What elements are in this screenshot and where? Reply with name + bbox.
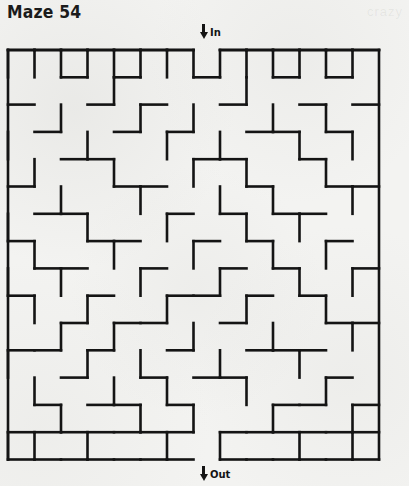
maze-wall-v xyxy=(86,213,89,243)
maze-wall-v xyxy=(245,49,248,79)
maze-border-top xyxy=(139,49,168,52)
maze-border-top xyxy=(166,49,195,52)
maze-wall-h xyxy=(113,322,142,325)
maze-wall-v xyxy=(325,49,328,79)
maze-wall-h xyxy=(298,103,327,106)
maze-wall-v xyxy=(113,240,116,270)
maze-wall-v xyxy=(86,294,89,324)
maze-border-bottom xyxy=(219,458,248,461)
maze-wall-v xyxy=(245,158,248,188)
maze-wall-v xyxy=(33,376,36,406)
maze-wall-h xyxy=(139,322,168,325)
maze-wall-v xyxy=(325,294,328,324)
maze-wall-v xyxy=(33,431,36,461)
maze-wall-v xyxy=(298,349,301,379)
maze-wall-h xyxy=(219,158,248,161)
maze-wall-h xyxy=(219,103,248,106)
maze-grid xyxy=(0,0,409,486)
maze-wall-h xyxy=(86,349,115,352)
maze-wall-h xyxy=(351,431,380,434)
maze-wall-h xyxy=(86,294,115,297)
maze-wall-h xyxy=(272,213,301,216)
maze-wall-h xyxy=(325,131,354,134)
maze-wall-h xyxy=(298,349,327,352)
maze-wall-h xyxy=(113,431,142,434)
maze-wall-v xyxy=(139,349,142,379)
maze-wall-v xyxy=(351,131,354,161)
maze-border-bottom xyxy=(298,458,327,461)
maze-wall-h xyxy=(272,349,301,352)
maze-wall-h xyxy=(86,103,115,106)
maze-page: Maze 54 crazy In Out xyxy=(0,0,409,486)
maze-wall-v xyxy=(351,49,354,79)
maze-wall-h xyxy=(113,240,142,243)
maze-border-bottom xyxy=(245,458,274,461)
maze-wall-v xyxy=(351,404,354,434)
maze-wall-v xyxy=(86,49,89,79)
maze-wall-v xyxy=(139,103,142,133)
maze-wall-v xyxy=(86,131,89,161)
maze-border-bottom xyxy=(351,458,380,461)
maze-wall-h xyxy=(33,213,62,216)
maze-wall-v xyxy=(298,49,301,79)
maze-wall-v xyxy=(298,213,301,243)
maze-wall-h xyxy=(139,376,168,379)
maze-border-bottom xyxy=(60,458,89,461)
maze-wall-h xyxy=(33,404,62,407)
maze-border-bottom xyxy=(86,458,115,461)
maze-wall-v xyxy=(351,322,354,352)
maze-wall-h xyxy=(139,267,168,270)
maze-wall-v xyxy=(192,240,195,270)
maze-wall-h xyxy=(139,103,168,106)
maze-border-top xyxy=(33,49,62,52)
maze-wall-h xyxy=(7,103,36,106)
maze-wall-v xyxy=(325,240,328,270)
maze-wall-h xyxy=(351,322,380,325)
maze-wall-v xyxy=(272,103,275,133)
maze-wall-h xyxy=(166,431,195,434)
maze-border-top xyxy=(219,49,248,52)
maze-wall-h xyxy=(325,185,354,188)
maze-wall-h xyxy=(325,322,354,325)
maze-wall-v xyxy=(219,185,222,215)
maze-wall-v xyxy=(219,267,222,297)
maze-wall-v xyxy=(86,349,89,379)
maze-wall-h xyxy=(7,240,36,243)
maze-wall-v xyxy=(192,158,195,188)
maze-wall-v xyxy=(166,376,169,406)
maze-wall-h xyxy=(219,322,248,325)
maze-wall-h xyxy=(7,431,36,434)
maze-wall-v xyxy=(166,131,169,161)
maze-wall-h xyxy=(245,131,274,134)
maze-wall-v xyxy=(192,49,195,79)
maze-wall-h xyxy=(33,131,62,134)
maze-wall-h xyxy=(33,431,62,434)
maze-wall-h xyxy=(219,431,248,434)
maze-wall-v xyxy=(245,76,248,106)
maze-wall-v xyxy=(245,213,248,243)
maze-border-top xyxy=(7,49,36,52)
maze-border-left xyxy=(7,49,10,461)
maze-border-bottom xyxy=(139,458,168,461)
maze-wall-v xyxy=(139,404,142,434)
maze-wall-h xyxy=(298,431,327,434)
maze-wall-v xyxy=(192,404,195,434)
maze-wall-v xyxy=(113,76,116,106)
maze-border-bottom xyxy=(33,458,62,461)
maze-wall-v xyxy=(60,267,63,297)
maze-wall-h xyxy=(325,76,354,79)
maze-wall-h xyxy=(325,431,354,434)
maze-wall-h xyxy=(272,131,301,134)
maze-wall-h xyxy=(325,376,354,379)
maze-wall-v xyxy=(166,49,169,79)
maze-border-bottom xyxy=(325,458,354,461)
maze-wall-h xyxy=(166,349,195,352)
maze-wall-h xyxy=(245,349,274,352)
maze-wall-v xyxy=(272,404,275,434)
maze-wall-h xyxy=(60,267,89,270)
maze-wall-h xyxy=(7,294,36,297)
maze-wall-h xyxy=(33,349,62,352)
maze-wall-h xyxy=(86,404,115,407)
maze-border-bottom xyxy=(166,458,195,461)
maze-wall-h xyxy=(60,76,89,79)
